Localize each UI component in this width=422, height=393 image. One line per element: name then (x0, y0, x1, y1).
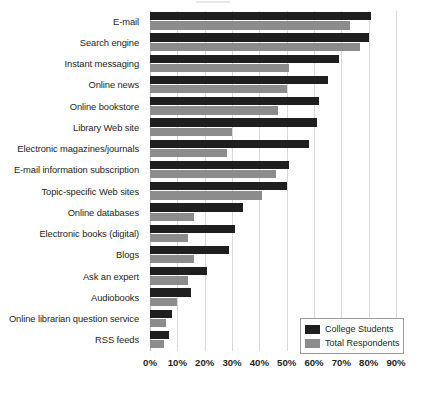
bar-college-students (150, 182, 287, 190)
top-artifact (196, 1, 230, 3)
bar-total-respondents (150, 106, 278, 114)
bar-total-respondents (150, 64, 289, 72)
category-label: RSS feeds (95, 334, 139, 345)
bar-total-respondents (150, 319, 166, 327)
legend-label: Total Respondents (325, 338, 400, 348)
bar-total-respondents (150, 21, 350, 29)
bar-row (150, 267, 396, 287)
bar-row (150, 75, 396, 95)
bar-college-students (150, 331, 169, 339)
bar-college-students (150, 140, 309, 148)
bar-college-students (150, 33, 369, 41)
bar-total-respondents (150, 298, 177, 306)
chart-legend: College Students Total Respondents (300, 318, 404, 354)
category-label: Online bookstore (70, 101, 139, 112)
bar-rows (150, 11, 396, 351)
bar-college-students (150, 118, 317, 126)
bar-college-students (150, 288, 191, 296)
category-label: Electronic magazines/journals (17, 143, 139, 154)
bar-total-respondents (150, 191, 262, 199)
category-label: E-mail (113, 16, 139, 27)
bar-college-students (150, 310, 172, 318)
bar-total-respondents (150, 43, 360, 51)
bar-row (150, 245, 396, 265)
bar-college-students (150, 225, 235, 233)
x-tick-label: 70% (332, 357, 351, 368)
bar-row (150, 160, 396, 180)
bar-college-students (150, 12, 371, 20)
bar-total-respondents (150, 170, 276, 178)
bar-college-students (150, 161, 289, 169)
legend-item-total-respondents: Total Respondents (305, 336, 399, 350)
legend-label: College Students (325, 324, 394, 334)
x-tick-label: 20% (195, 357, 214, 368)
category-axis-labels: E-mailSearch engineInstant messagingOnli… (0, 11, 145, 351)
x-tick-label: 30% (222, 357, 241, 368)
bar-college-students (150, 55, 339, 63)
bar-row (150, 118, 396, 138)
bar-college-students (150, 76, 328, 84)
bar-total-respondents (150, 128, 232, 136)
gridline-90 (396, 11, 397, 351)
bar-chart: E-mailSearch engineInstant messagingOnli… (0, 0, 422, 393)
x-tick-label: 80% (359, 357, 378, 368)
x-axis-tick-labels: 0%10%20%30%40%50%60%70%80%90% (150, 357, 396, 373)
bar-college-students (150, 97, 319, 105)
category-label: Audiobooks (91, 292, 139, 303)
bar-row (150, 12, 396, 32)
category-label: Search engine (80, 37, 139, 48)
bar-total-respondents (150, 340, 164, 348)
bar-row (150, 288, 396, 308)
x-tick-label: 40% (250, 357, 269, 368)
bar-total-respondents (150, 213, 194, 221)
bar-total-respondents (150, 234, 188, 242)
category-label: Instant messaging (65, 58, 139, 69)
bar-row (150, 33, 396, 53)
category-label: Online databases (68, 207, 139, 218)
bar-row (150, 182, 396, 202)
bar-college-students (150, 267, 207, 275)
bar-total-respondents (150, 276, 188, 284)
legend-swatch-icon (305, 325, 320, 334)
x-tick-label: 90% (386, 357, 405, 368)
category-label: Topic-specific Web sites (42, 186, 139, 197)
x-tick-label: 50% (277, 357, 296, 368)
bar-college-students (150, 203, 243, 211)
legend-swatch-icon (305, 339, 320, 348)
x-tick-label: 0% (143, 357, 157, 368)
bar-total-respondents (150, 149, 227, 157)
bar-total-respondents (150, 255, 194, 263)
category-label: Electronic books (digital) (39, 228, 139, 239)
bar-row (150, 54, 396, 74)
category-label: Ask an expert (83, 271, 139, 282)
x-tick-label: 10% (168, 357, 187, 368)
bar-row (150, 203, 396, 223)
category-label: Online news (89, 79, 140, 90)
category-label: Blogs (116, 249, 139, 260)
category-label: Online librarian question service (9, 313, 139, 324)
bar-row (150, 97, 396, 117)
plot-area (150, 11, 396, 351)
bar-row (150, 139, 396, 159)
bar-row (150, 224, 396, 244)
x-tick-label: 60% (304, 357, 323, 368)
bar-college-students (150, 246, 229, 254)
category-label: E-mail information subscription (14, 164, 139, 175)
category-label: Library Web site (73, 122, 139, 133)
bar-total-respondents (150, 85, 287, 93)
legend-item-college-students: College Students (305, 322, 399, 336)
